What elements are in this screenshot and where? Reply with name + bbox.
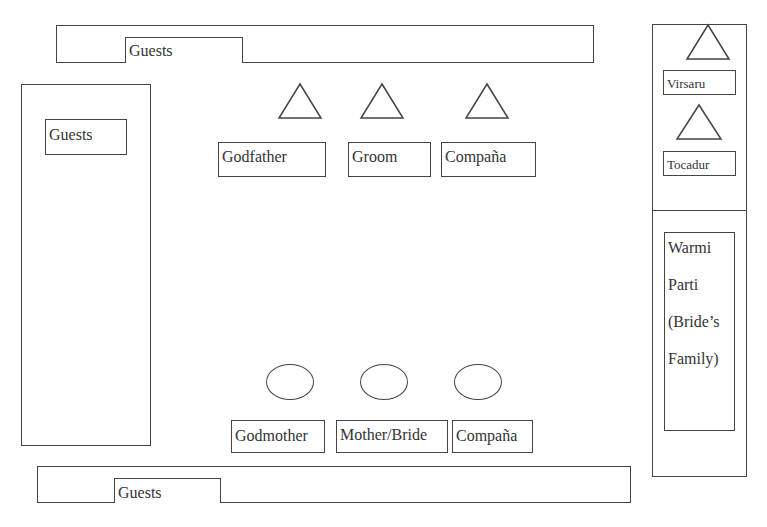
tocadur-label: Tocadur (663, 151, 736, 176)
top-guests-label: Guests (125, 37, 243, 63)
bottom-guests-label: Guests (114, 478, 221, 503)
left-guests-label: Guests (45, 119, 127, 155)
tocadur-triangle-icon (675, 103, 723, 141)
virsaru-label: Virsaru (663, 70, 736, 95)
brides-family-line-4: Family) (668, 350, 734, 387)
groom-triangle-icon (359, 82, 405, 120)
godfather-label: Godfather (218, 142, 326, 177)
brides-family-area: Warmi Parti (Bride’s Family) (664, 232, 735, 431)
virsaru-triangle-icon (685, 23, 731, 61)
brides-family-line-1: Warmi (668, 239, 734, 276)
groom-label: Groom (348, 142, 431, 177)
compana-circle-icon (454, 364, 502, 400)
compana-triangle-icon (464, 82, 510, 120)
compana-female-label: Compaña (452, 420, 533, 453)
godmother-circle-icon (266, 364, 314, 400)
godmother-label: Godmother (231, 420, 325, 453)
mother-bride-circle-icon (360, 364, 408, 400)
right-column-divider (652, 210, 747, 211)
compana-male-label: Compaña (441, 142, 536, 177)
godfather-triangle-icon (277, 82, 323, 120)
mother-bride-label: Mother/Bride (336, 420, 448, 453)
brides-family-line-3: (Bride’s (668, 313, 734, 350)
brides-family-line-2: Parti (668, 276, 734, 313)
